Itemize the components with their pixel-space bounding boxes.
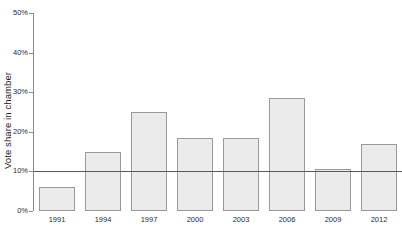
y-axis-label: Vote share in chamber [0, 0, 14, 241]
y-tick-label: 10% [2, 167, 28, 175]
y-tick-label-wrap: 0% [0, 207, 28, 215]
y-tick-mark [29, 92, 33, 93]
y-tick-mark [29, 53, 33, 54]
bar [315, 169, 351, 211]
y-tick-label-wrap: 30% [0, 88, 28, 96]
x-tick-label: 2009 [313, 216, 353, 224]
y-tick-mark [29, 132, 33, 133]
bar [39, 187, 75, 211]
plot-area [34, 13, 402, 211]
y-tick-label: 30% [2, 88, 28, 96]
bar [85, 152, 121, 211]
bar [131, 112, 167, 211]
bar [177, 138, 213, 211]
x-tick-label: 2006 [267, 216, 307, 224]
y-tick-label: 50% [2, 9, 28, 17]
bar [223, 138, 259, 211]
y-tick-mark [29, 171, 33, 172]
bar [269, 98, 305, 211]
y-tick-label: 20% [2, 128, 28, 136]
x-tick-label: 2003 [221, 216, 261, 224]
bar-chart: Vote share in chamber 0%10%20%30%40%50% … [0, 0, 402, 241]
x-tick-label: 1994 [83, 216, 123, 224]
y-tick-label-wrap: 40% [0, 49, 28, 57]
x-tick-label: 1991 [37, 216, 77, 224]
reference-line-10-percent [34, 171, 402, 172]
y-tick-mark [29, 211, 33, 212]
y-tick-label-wrap: 20% [0, 128, 28, 136]
y-tick-label: 40% [2, 49, 28, 57]
x-tick-label: 1997 [129, 216, 169, 224]
x-tick-label: 2000 [175, 216, 215, 224]
y-tick-mark [29, 13, 33, 14]
y-tick-label: 0% [2, 207, 28, 215]
y-tick-label-wrap: 10% [0, 167, 28, 175]
x-tick-label: 2012 [359, 216, 399, 224]
bar [361, 144, 397, 211]
y-tick-label-wrap: 50% [0, 9, 28, 17]
